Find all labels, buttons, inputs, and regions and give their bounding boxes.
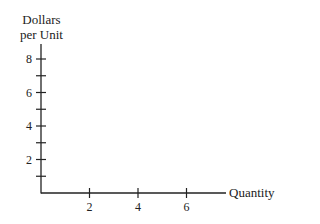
x-tick-label: 2 [87,200,93,214]
x-tick-label: 4 [135,200,141,214]
y-tick-label: 2 [26,153,32,167]
y-tick-label: 4 [26,119,32,133]
y-tick-label: 6 [26,86,32,100]
x-tick-label: 6 [184,200,190,214]
x-ticks: 246 [87,188,190,214]
x-axis-label: Quantity [229,185,275,200]
y-tick-label: 8 [26,52,32,66]
y-ticks: 2468 [26,52,46,176]
